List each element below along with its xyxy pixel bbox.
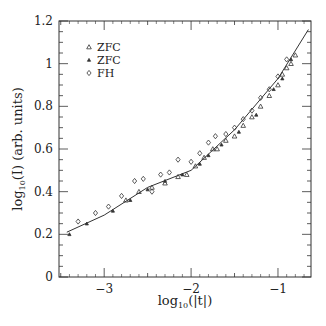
legend-label: FH [97,67,114,80]
y-tick-label: 0.4 [34,185,53,199]
y-tick-label: 1.2 [34,14,53,28]
legend: ZFCZFCFH [87,41,121,80]
y-axis-label: log10(I) (arb. units) [10,87,27,210]
legend-label: ZFC [97,41,121,54]
chart: 00.20.40.60.811.2 −3−2−1 ZFCZFCFH log10(… [0,0,326,326]
y-tick-label: 0.6 [34,142,53,156]
legend-label: ZFC [97,54,121,67]
legend-item: ZFC [87,41,121,54]
y-tick-label: 0.8 [34,99,53,113]
x-tick-label: −3 [95,282,113,296]
data-points [68,53,298,236]
y-tick-labels: 00.20.40.60.811.2 [34,14,53,284]
y-tick-label: 0 [45,270,53,284]
x-tick-label: −1 [269,282,287,296]
y-tick-label: 1 [45,57,53,71]
legend-item: FH [87,67,114,80]
y-tick-label: 0.2 [34,227,53,241]
legend-item: ZFC [87,54,120,67]
